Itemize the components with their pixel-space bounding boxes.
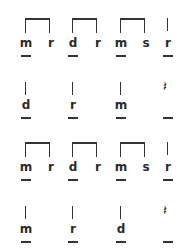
solfege-syllable: r bbox=[161, 36, 175, 50]
beam bbox=[72, 18, 97, 33]
solfege-syllable: r bbox=[66, 98, 80, 112]
solfege-syllable: r bbox=[91, 36, 105, 50]
solfege-syllable: m bbox=[19, 222, 33, 236]
stem bbox=[167, 142, 168, 155]
solfege-syllable: r bbox=[44, 160, 58, 174]
solfege-syllable: d bbox=[66, 36, 80, 50]
octave-underline bbox=[116, 55, 126, 57]
row-1: mrdrmsr bbox=[0, 18, 196, 78]
octave-underline bbox=[116, 241, 126, 243]
row-2: drm𝄽 bbox=[0, 80, 196, 140]
octave-underline bbox=[163, 241, 173, 243]
solfege-syllable: m bbox=[114, 36, 128, 50]
octave-underline bbox=[68, 55, 78, 57]
octave-underline bbox=[21, 55, 31, 57]
stem bbox=[25, 82, 26, 95]
solfege-syllable: r bbox=[66, 222, 80, 236]
solfege-syllable: m bbox=[114, 98, 128, 112]
solfege-syllable: r bbox=[161, 160, 175, 174]
beam bbox=[72, 142, 97, 157]
octave-underline bbox=[68, 241, 78, 243]
row-4: mrd𝄽 bbox=[0, 204, 196, 248]
octave-underline bbox=[21, 117, 31, 119]
solfege-syllable: m bbox=[19, 36, 33, 50]
octave-underline bbox=[21, 241, 31, 243]
solfege-syllable: r bbox=[91, 160, 105, 174]
solfege-syllable: d bbox=[114, 222, 128, 236]
solfege-syllable: m bbox=[19, 160, 33, 174]
beam bbox=[120, 142, 145, 157]
solfege-syllable: d bbox=[66, 160, 80, 174]
octave-underline bbox=[163, 55, 173, 57]
octave-underline bbox=[116, 179, 126, 181]
octave-underline bbox=[21, 179, 31, 181]
row-3: mrdrmsr bbox=[0, 142, 196, 202]
stem bbox=[72, 206, 73, 219]
octave-underline bbox=[68, 117, 78, 119]
solfege-syllable: d bbox=[19, 98, 33, 112]
beam bbox=[120, 18, 145, 33]
solfege-syllable: s bbox=[139, 36, 153, 50]
stem bbox=[72, 82, 73, 95]
quarter-rest-icon: 𝄽 bbox=[163, 204, 167, 218]
stem bbox=[167, 18, 168, 31]
stem bbox=[120, 206, 121, 219]
octave-underline bbox=[163, 117, 173, 119]
solfege-syllable: s bbox=[139, 160, 153, 174]
beam bbox=[25, 18, 50, 33]
stem bbox=[120, 82, 121, 95]
octave-underline bbox=[68, 179, 78, 181]
solfege-syllable: r bbox=[44, 36, 58, 50]
octave-underline bbox=[116, 117, 126, 119]
quarter-rest-icon: 𝄽 bbox=[163, 80, 167, 94]
beam bbox=[25, 142, 50, 157]
octave-underline bbox=[163, 179, 173, 181]
solfege-syllable: m bbox=[114, 160, 128, 174]
stem bbox=[25, 206, 26, 219]
